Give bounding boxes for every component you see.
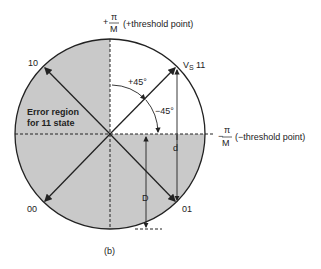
- dim-label-d: d: [173, 143, 178, 153]
- dim-label-D: D: [142, 193, 149, 203]
- angle-plus-45: +45°: [128, 77, 147, 87]
- top-threshold-label: (+threshold point): [123, 19, 193, 29]
- point-label-01: 01: [182, 204, 192, 214]
- minus-45-arc: [146, 100, 158, 132]
- psk-decision-diagram: + π M (+threshold point) − π M (−thresho…: [0, 0, 321, 269]
- error-region-line2: for 11 state: [27, 118, 75, 128]
- point-label-vs-sub: S: [189, 64, 194, 71]
- point-label-11: 11: [196, 60, 205, 70]
- plus-45-arc: [112, 85, 145, 99]
- figure-caption: (b): [104, 246, 115, 256]
- top-threshold-num: π: [111, 12, 117, 22]
- right-threshold-den: M: [222, 138, 230, 148]
- right-threshold-label: (−threshold point): [235, 132, 305, 142]
- right-threshold-num: π: [224, 125, 230, 135]
- top-threshold-sign: +: [103, 17, 108, 27]
- point-label-00: 00: [27, 204, 37, 214]
- angle-minus-45: −45°: [155, 106, 174, 116]
- top-threshold-den: M: [110, 24, 118, 34]
- error-region-line1: Error region: [27, 107, 79, 117]
- point-label-10: 10: [28, 58, 38, 68]
